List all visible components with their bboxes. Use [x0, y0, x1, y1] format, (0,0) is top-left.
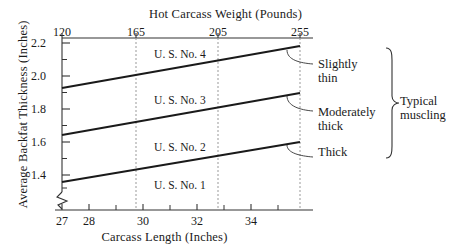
- x-axis: [55, 204, 313, 210]
- data-lines: [62, 46, 300, 182]
- typical-muscling-brace: [386, 48, 399, 158]
- boundary-line-no1-no2: [62, 142, 300, 182]
- chart-figure: Hot Carcass Weight (Pounds) 120 165 205 …: [0, 0, 451, 249]
- gridlines: [136, 38, 300, 210]
- boundary-line-no2-no3: [62, 93, 300, 135]
- boundary-line-no3-no4: [62, 46, 300, 88]
- chart-canvas: [0, 0, 451, 249]
- leader-slightly-thin: [287, 50, 313, 64]
- top-axis: [62, 33, 313, 38]
- y-axis: [57, 38, 70, 209]
